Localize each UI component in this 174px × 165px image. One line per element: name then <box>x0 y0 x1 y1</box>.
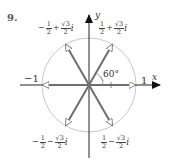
tick-label-neg-one: −1 <box>24 74 39 84</box>
problem-number: 9. <box>7 13 17 23</box>
fraction-re: 12 <box>99 21 105 35</box>
imag-unit: i <box>126 137 129 147</box>
fraction-re: 12 <box>101 135 107 149</box>
fraction-im: √32 <box>61 21 71 35</box>
vector-q3 <box>66 85 89 125</box>
fraction-im: √32 <box>116 135 126 149</box>
vector-q2 <box>66 45 89 85</box>
y-axis-label: y <box>95 11 100 20</box>
sign: − <box>32 137 39 146</box>
root-label-q4: 12−√32i <box>101 135 129 149</box>
operator: − <box>108 137 115 146</box>
tick-label-one: 1 <box>141 76 147 86</box>
fraction-im: √32 <box>55 135 65 149</box>
imag-unit: i <box>124 23 127 33</box>
angle-label: 60° <box>103 70 119 79</box>
sign: − <box>38 23 45 32</box>
imag-unit: i <box>65 137 68 147</box>
vector-q4 <box>89 85 112 125</box>
angle-arc <box>96 73 103 85</box>
imag-unit: i <box>71 23 74 33</box>
operator: + <box>53 23 60 32</box>
x-axis-label: x <box>152 73 157 82</box>
operator: + <box>106 23 113 32</box>
root-label-q1: 12+√32i <box>99 21 127 35</box>
operator: − <box>47 137 54 146</box>
fraction-re: 12 <box>40 135 46 149</box>
vector-q1 <box>89 45 112 85</box>
fraction-im: √32 <box>114 21 124 35</box>
root-label-q3: −12−√32i <box>31 135 68 149</box>
fraction-re: 12 <box>46 21 52 35</box>
root-label-q2: −12+√32i <box>37 21 74 35</box>
